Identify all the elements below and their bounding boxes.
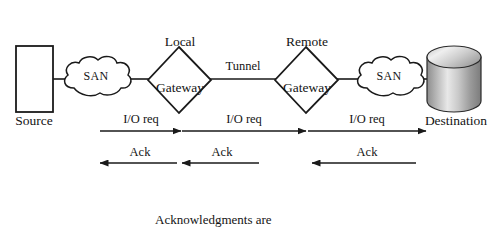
ack-label-1: Ack bbox=[130, 145, 151, 159]
ack-label-2: Ack bbox=[212, 145, 233, 159]
remote-gateway-label: Remote Gateway bbox=[283, 4, 331, 125]
destination-shape bbox=[427, 46, 481, 112]
destination-node-label: Destination bbox=[425, 113, 487, 128]
local-gateway-label-line2: Gateway bbox=[156, 80, 204, 95]
tunnel-link-label: Tunnel bbox=[226, 59, 261, 73]
io-req-label-3: I/O req bbox=[349, 112, 385, 126]
diagram-canvas: SAN SAN Source Destination Local Gateway… bbox=[0, 0, 495, 231]
remote-gateway-label-line1: Remote bbox=[283, 34, 331, 49]
local-gateway-label: Local Gateway bbox=[156, 4, 204, 125]
io-req-label-1: I/O req bbox=[123, 112, 159, 126]
ack-label-3: Ack bbox=[357, 145, 378, 159]
source-node-label: Source bbox=[15, 113, 53, 128]
source-node-shape bbox=[16, 46, 53, 112]
io-req-label-2: I/O req bbox=[226, 112, 262, 126]
remote-gateway-label-line2: Gateway bbox=[283, 80, 331, 95]
local-gateway-label-line1: Local bbox=[156, 34, 204, 49]
diagram-caption: Acknowledgments are delayed and credits … bbox=[155, 176, 274, 231]
san-left-label: SAN bbox=[83, 70, 108, 83]
san-right-label: SAN bbox=[376, 70, 401, 83]
caption-line-1: Acknowledgments are bbox=[155, 211, 274, 229]
